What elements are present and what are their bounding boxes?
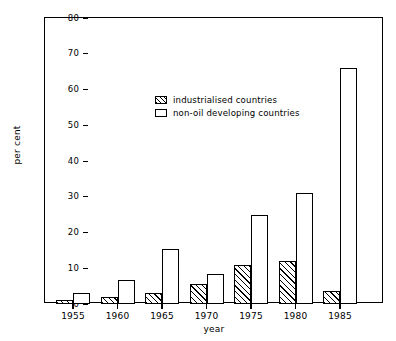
- x-tick-mark: [206, 304, 207, 309]
- bar-chart: per cent year 01020304050607080 19551960…: [0, 0, 396, 341]
- x-tick-mark: [295, 304, 296, 309]
- y-tick-mark: [83, 18, 88, 19]
- y-axis-title: per cent: [12, 115, 22, 175]
- y-tick-label: 70: [45, 48, 79, 58]
- bar-1980-non-oil-developing: [296, 193, 313, 304]
- plot-area: 01020304050607080 1955196019651970197519…: [44, 17, 383, 303]
- bar-1985-non-oil-developing: [340, 68, 357, 304]
- y-tick-label: 40: [45, 156, 79, 166]
- bar-1955-non-oil-developing: [73, 293, 90, 304]
- y-tick-mark: [83, 125, 88, 126]
- x-tick-mark: [72, 304, 73, 309]
- bar-1965-industrialised: [145, 293, 162, 304]
- x-tick-mark: [339, 304, 340, 309]
- x-tick-label: 1955: [51, 311, 95, 321]
- y-tick-label: 20: [45, 227, 79, 237]
- bar-1965-non-oil-developing: [162, 249, 179, 304]
- bar-1955-industrialised: [56, 300, 73, 304]
- x-tick-mark: [161, 304, 162, 309]
- y-tick-mark: [83, 89, 88, 90]
- legend-swatch-empty-icon: [155, 109, 167, 117]
- y-tick-label: 30: [45, 191, 79, 201]
- bar-1975-industrialised: [234, 265, 251, 304]
- y-tick-mark: [83, 53, 88, 54]
- legend-item-industrialised: industrialised countries: [155, 94, 300, 106]
- legend-item-non-oil-developing: non-oil developing countries: [155, 107, 300, 119]
- x-tick-label: 1980: [274, 311, 318, 321]
- bar-1970-non-oil-developing: [207, 274, 224, 304]
- legend-label-non-oil-developing: non-oil developing countries: [173, 108, 300, 118]
- bar-1975-non-oil-developing: [251, 215, 268, 304]
- y-tick-mark: [83, 232, 88, 233]
- x-tick-mark: [117, 304, 118, 309]
- y-tick-mark: [83, 268, 88, 269]
- legend-swatch-hatched-icon: [155, 96, 167, 104]
- bar-1970-industrialised: [190, 284, 207, 304]
- bar-1985-industrialised: [323, 291, 340, 304]
- y-tick-mark: [83, 196, 88, 197]
- bar-1960-industrialised: [101, 297, 118, 304]
- x-tick-mark: [250, 304, 251, 309]
- x-tick-label: 1960: [96, 311, 140, 321]
- y-tick-mark: [83, 161, 88, 162]
- y-tick-label: 80: [45, 13, 79, 23]
- x-axis-title: year: [44, 324, 384, 334]
- y-tick-label: 10: [45, 263, 79, 273]
- y-tick-label: 60: [45, 84, 79, 94]
- x-tick-label: 1965: [140, 311, 184, 321]
- x-tick-label: 1975: [229, 311, 273, 321]
- legend: industrialised countries non-oil develop…: [155, 94, 300, 120]
- bar-1980-industrialised: [279, 261, 296, 304]
- y-tick-label: 50: [45, 120, 79, 130]
- x-tick-label: 1970: [185, 311, 229, 321]
- x-tick-label: 1985: [318, 311, 362, 321]
- bar-1960-non-oil-developing: [118, 280, 135, 304]
- legend-label-industrialised: industrialised countries: [173, 95, 277, 105]
